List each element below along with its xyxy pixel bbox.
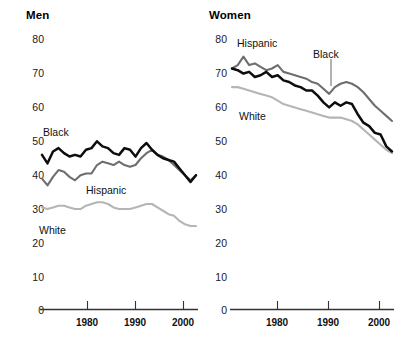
y-axis-tick-men-30: 30 [22,203,44,215]
x-axis-tick-men-2000: 2000 [172,317,194,328]
y-axis-tick-women-10: 10 [205,271,227,283]
page-title-men: Men [26,9,49,21]
series-label-women-hispanic: Hispanic [237,37,277,49]
x-axis-tick-women-1980: 1980 [266,317,288,328]
data-series-men-black [42,141,196,182]
y-axis-tick-women-80: 80 [205,33,227,45]
y-axis-tick-women-30: 30 [205,203,227,215]
y-axis-tick-women-20: 20 [205,237,227,249]
y-axis-tick-men-50: 50 [22,135,44,147]
y-axis-tick-men-60: 60 [22,101,44,113]
y-axis-tick-women-50: 50 [205,135,227,147]
x-axis-tick-women-1990: 1990 [317,317,339,328]
y-axis-tick-men-80: 80 [22,33,44,45]
series-label-men-hispanic: Hispanic [86,184,126,196]
x-axis-tick-women-2000: 2000 [368,317,390,328]
series-label-women-white: White [239,110,266,122]
y-axis-tick-men-40: 40 [22,169,44,181]
series-label-women-black: Black [313,48,339,60]
series-label-men-white: White [39,224,66,236]
y-axis-tick-men-10: 10 [22,271,44,283]
y-axis-tick-women-40: 40 [205,169,227,181]
chart-panel-men: Men 80 70 60 50 40 30 20 10 0 1980 1990 … [0,0,200,354]
data-series-men-hispanic [42,150,196,186]
y-axis-tick-men-0: 0 [22,304,44,316]
y-axis-tick-women-70: 70 [205,67,227,79]
plot-area-women [200,0,404,354]
x-axis-tick-men-1980: 1980 [76,317,98,328]
y-axis-tick-men-20: 20 [22,237,44,249]
x-axis-tick-men-1990: 1990 [124,317,146,328]
y-axis-tick-men-70: 70 [22,67,44,79]
figure-root: Men 80 70 60 50 40 30 20 10 0 1980 1990 … [0,0,404,354]
y-axis-tick-women-60: 60 [205,101,227,113]
data-series-men-white [42,202,196,226]
y-axis-tick-women-0: 0 [205,304,227,316]
chart-panel-women: Women 80 70 60 50 40 30 20 10 0 1980 199… [200,0,404,354]
page-title-women: Women [209,9,251,21]
series-label-men-black: Black [43,126,69,138]
